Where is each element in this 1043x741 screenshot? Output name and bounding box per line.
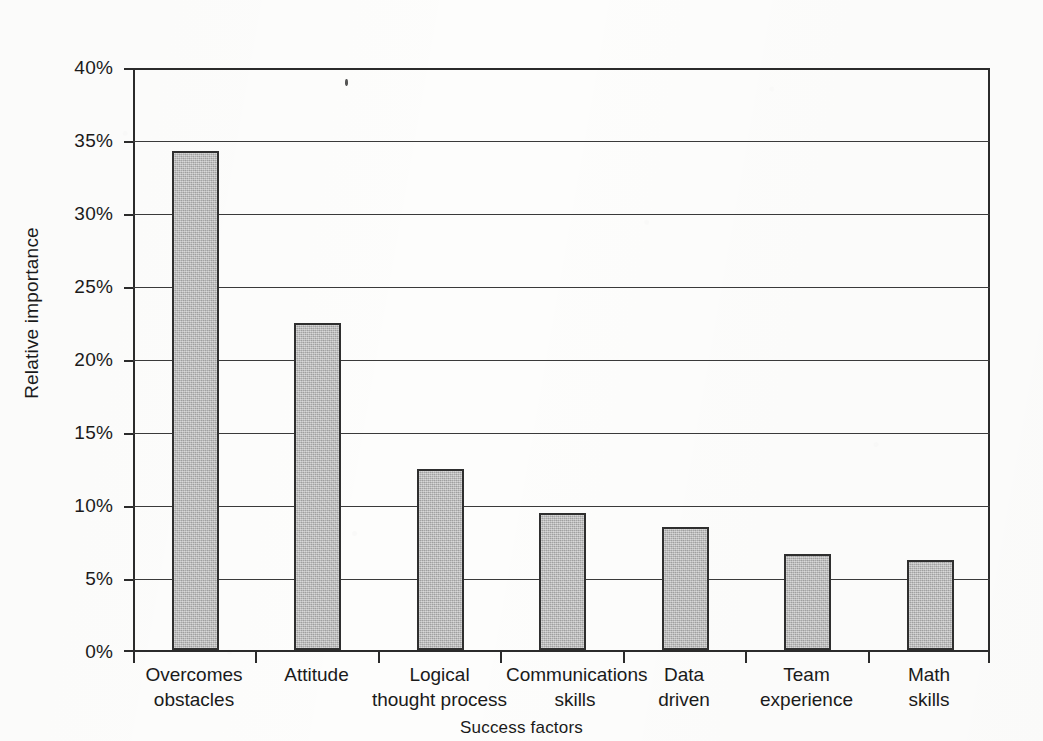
y-tick-20 <box>124 360 133 362</box>
x-axis-line <box>133 650 990 652</box>
x-label-attitude: Attitude <box>255 662 378 687</box>
bar-overcomes-obstacles <box>172 151 219 650</box>
y-tick-label-40: 40% <box>43 57 113 79</box>
bar-data-driven <box>662 527 709 650</box>
y-axis-tick-labels: 40% 35% 30% 25% 20% 15% 10% 5% 0% <box>43 68 113 652</box>
x-label-team-experience: Team experience <box>737 662 876 712</box>
x-label-math-skills: Math skills <box>868 662 990 712</box>
y-tick-label-15: 15% <box>43 422 113 444</box>
bar-math-skills <box>907 560 954 650</box>
x-label-data-driven: Data driven <box>623 662 745 712</box>
y-tick-35 <box>124 141 133 143</box>
x-axis-category-labels: Overcomes obstacles Attitude Logical tho… <box>133 662 990 718</box>
chart-page: 40% 35% 30% 25% 20% 15% 10% 5% 0% Relati… <box>0 0 1043 741</box>
gridline-15 <box>133 433 990 434</box>
y-tick-0 <box>124 650 133 652</box>
y-tick-label-35: 35% <box>43 130 113 152</box>
y-tick-30 <box>124 214 133 216</box>
x-axis-title: Success factors <box>0 718 1043 738</box>
y-tick-label-5: 5% <box>43 568 113 590</box>
bar-logical-thought-process <box>417 469 464 650</box>
gridline-30 <box>133 214 990 215</box>
y-tick-label-20: 20% <box>43 349 113 371</box>
y-tick-10 <box>124 506 133 508</box>
y-tick-label-0: 0% <box>43 641 113 663</box>
y-tick-5 <box>124 579 133 581</box>
bar-attitude <box>294 323 341 650</box>
gridline-20 <box>133 360 990 361</box>
x-label-logical-thought-process: Logical thought process <box>371 662 508 712</box>
gridline-25 <box>133 287 990 288</box>
y-tick-25 <box>124 287 133 289</box>
y-tick-label-30: 30% <box>43 203 113 225</box>
y-axis-title: Relative importance <box>21 183 43 443</box>
plot-area <box>133 68 990 652</box>
y-tick-15 <box>124 433 133 435</box>
bar-communications-skills <box>539 513 586 650</box>
x-label-overcomes-obstacles: Overcomes obstacles <box>133 662 255 712</box>
gridline-10 <box>133 506 990 507</box>
bar-team-experience <box>784 554 831 650</box>
y-tick-label-10: 10% <box>43 495 113 517</box>
y-tick-label-25: 25% <box>43 276 113 298</box>
plot-top-border <box>133 68 990 70</box>
gridline-35 <box>133 141 990 142</box>
y-tick-40 <box>124 68 133 70</box>
